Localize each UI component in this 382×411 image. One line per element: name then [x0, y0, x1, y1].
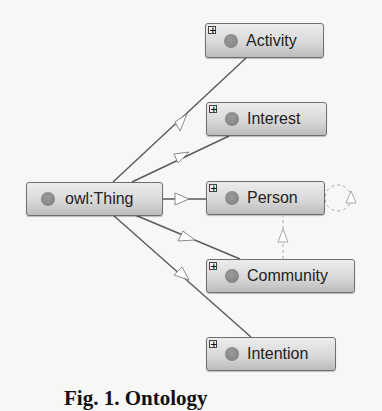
node-label: Person	[247, 189, 298, 207]
arrowhead-intention-icon	[174, 267, 189, 280]
arrowhead-community-icon	[178, 231, 195, 241]
edge-person-self-loop	[325, 185, 351, 211]
class-dot-icon	[225, 347, 239, 361]
expand-plus-icon[interactable]: +	[209, 262, 217, 270]
expand-plus-icon[interactable]: +	[208, 26, 216, 34]
expand-plus-icon[interactable]: +	[209, 105, 217, 113]
expand-plus-icon[interactable]: +	[209, 340, 217, 348]
node-label: owl:Thing	[65, 190, 133, 208]
expand-plus-icon[interactable]: +	[209, 184, 217, 192]
node-label: Activity	[246, 32, 297, 50]
node-label: Community	[247, 267, 328, 285]
class-dot-icon	[225, 112, 239, 126]
arrowhead-community-person-icon	[278, 229, 288, 242]
node-interest[interactable]: + Interest	[206, 102, 327, 136]
figure-caption: Fig. 1. Ontology	[64, 386, 208, 411]
node-community[interactable]: + Community	[206, 259, 355, 293]
node-activity[interactable]: + Activity	[205, 23, 324, 58]
class-dot-icon	[224, 34, 238, 48]
arrowhead-self-loop-icon	[346, 191, 356, 203]
node-label: Intention	[247, 345, 308, 363]
arrowhead-activity-icon	[175, 114, 187, 131]
class-dot-icon	[225, 269, 239, 283]
node-owl-thing[interactable]: owl:Thing	[26, 182, 163, 216]
node-person[interactable]: + Person	[206, 181, 325, 215]
class-dot-icon	[41, 192, 55, 206]
arrowhead-person-icon	[175, 193, 189, 205]
node-intention[interactable]: + Intention	[206, 337, 336, 371]
class-dot-icon	[225, 191, 239, 205]
node-label: Interest	[247, 110, 300, 128]
